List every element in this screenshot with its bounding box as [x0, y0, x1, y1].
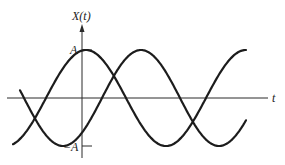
signal-diagram: X(t) t A −A: [0, 0, 285, 165]
y-axis-arrow-icon: [80, 24, 85, 32]
y-axis-label: X(t): [71, 9, 91, 23]
amplitude-bottom-label: −A: [63, 140, 79, 154]
amplitude-top-label: A: [69, 43, 78, 57]
x-axis-label: t: [272, 91, 276, 105]
